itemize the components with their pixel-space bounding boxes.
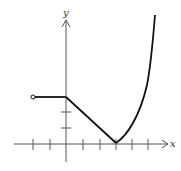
- y-axis-label: y: [62, 7, 69, 18]
- open-endpoint-icon: [31, 95, 35, 99]
- function-graph: x y: [0, 0, 181, 171]
- linear-segment: [66, 97, 116, 143]
- rising-curve: [116, 15, 155, 143]
- x-axis-label: x: [170, 138, 176, 149]
- graph-curve: [35, 15, 155, 143]
- y-axis: [62, 20, 70, 162]
- x-axis: [14, 140, 168, 148]
